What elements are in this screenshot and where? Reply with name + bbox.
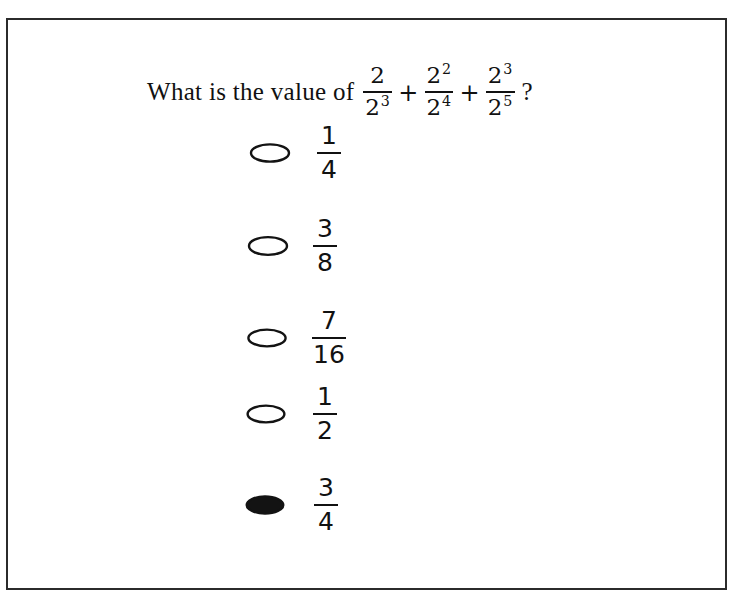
answer-option-fraction-bar [313,413,337,415]
term-3-numerator-exponent: 3 [503,61,513,77]
fraction-term-2-denominator: 24 [425,96,454,120]
term-1-denominator-base: 2 [365,94,380,120]
answer-bubble-empty-icon[interactable] [247,234,289,258]
fraction-term-2: 22 24 [425,64,454,120]
answer-option-fraction: 1 2 [313,384,337,445]
answer-option-row[interactable]: 1 2 [245,384,337,445]
answer-bubble-filled-icon[interactable] [244,493,286,517]
term-2-numerator-exponent: 2 [442,61,452,77]
fraction-term-1: 2 23 [363,64,392,120]
fraction-term-3-numerator: 23 [486,64,515,88]
term-3-denominator-exponent: 5 [503,93,513,109]
answer-option-numerator: 1 [320,123,338,149]
answer-option-denominator: 2 [316,418,334,444]
answer-option-fraction: 3 4 [314,475,338,536]
answer-bubble-empty-icon[interactable] [245,402,287,426]
answer-option-denominator: 16 [312,342,346,368]
answer-option-numerator: 3 [317,475,335,501]
operator-plus-1: + [392,81,424,105]
term-2-numerator-base: 2 [427,62,442,88]
term-1-denominator-exponent: 3 [380,93,390,109]
answer-option-denominator: 4 [320,157,338,183]
answer-option-row[interactable]: 3 8 [247,216,337,277]
answer-option-numerator: 1 [316,384,334,410]
fraction-term-3: 23 25 [486,64,515,120]
answer-option-denominator: 4 [317,509,335,535]
answer-option-row[interactable]: 1 4 [249,123,341,184]
term-2-denominator-exponent: 4 [442,93,452,109]
fraction-term-1-denominator: 23 [363,96,392,120]
question-mark: ? [515,78,533,106]
answer-option-numerator: 3 [316,216,334,242]
answer-option-fraction-bar [314,504,338,506]
fraction-term-3-denominator: 25 [486,96,515,120]
term-3-denominator-base: 2 [488,94,503,120]
answer-bubble-empty-icon[interactable] [249,141,291,165]
question-line: What is the value of 2 23 + 22 [147,64,533,120]
math-expression: 2 23 + 22 24 + [363,64,533,120]
answer-option-numerator: 7 [320,308,338,334]
fraction-term-1-numerator: 2 [368,64,387,88]
answer-option-fraction-bar [312,337,346,339]
answer-option-fraction: 7 16 [312,308,346,369]
question-stem-text: What is the value of [147,79,363,104]
answer-option-row[interactable]: 7 16 [246,308,346,369]
answer-option-denominator: 8 [316,250,334,276]
answer-bubble-empty-icon[interactable] [246,326,288,350]
answer-option-fraction-bar [317,152,341,154]
term-3-numerator-base: 2 [488,62,503,88]
term-1-numerator-base: 2 [370,62,385,88]
scanned-page-frame: What is the value of 2 23 + 22 [6,18,727,590]
term-2-denominator-base: 2 [427,94,442,120]
answer-option-fraction: 3 8 [313,216,337,277]
fraction-term-2-numerator: 22 [425,64,454,88]
answer-option-row-selected[interactable]: 3 4 [244,475,338,536]
answer-option-fraction: 1 4 [317,123,341,184]
answer-option-fraction-bar [313,245,337,247]
operator-plus-2: + [453,81,485,105]
